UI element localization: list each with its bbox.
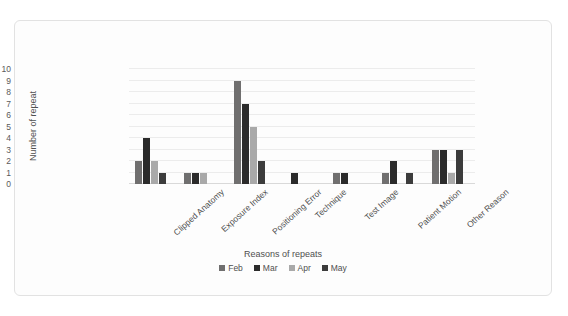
chart-figure: Number of repeat 109876543210 Clipped An… (14, 20, 552, 296)
y-axis-tick: 7 (6, 99, 11, 108)
x-axis-tick: Exposure Index (219, 187, 270, 234)
legend-item[interactable]: Feb (219, 263, 243, 273)
bar (390, 161, 397, 184)
legend-item[interactable]: May (322, 263, 347, 273)
bar (143, 138, 150, 184)
bar (184, 173, 191, 185)
bar-group (234, 69, 277, 184)
legend-label: Apr (298, 263, 311, 273)
bar-group (333, 69, 376, 184)
y-axis-tick: 9 (6, 76, 11, 85)
legend-item[interactable]: Mar (254, 263, 278, 273)
legend-label: May (331, 263, 347, 273)
y-axis-tick: 5 (6, 122, 11, 131)
bar-group (382, 69, 425, 184)
bar (200, 173, 207, 185)
y-axis-tick: 0 (6, 180, 11, 189)
y-axis-tick: 6 (6, 111, 11, 120)
x-axis-tick: Patient Motion (416, 187, 463, 231)
x-axis-tick-labels: Clipped AnatomyExposure IndexPositioning… (129, 187, 475, 257)
legend-label: Mar (263, 263, 278, 273)
bar (159, 173, 166, 185)
bar (333, 173, 340, 185)
plot-area (129, 69, 475, 184)
bar (432, 150, 439, 185)
bar (135, 161, 142, 184)
y-axis-tick: 1 (6, 168, 11, 177)
bar-group (432, 69, 475, 184)
bar (382, 173, 389, 185)
y-axis-title: Number of repeat (28, 56, 38, 196)
bar (242, 104, 249, 185)
legend-swatch-icon (289, 265, 295, 271)
bar (448, 173, 455, 185)
y-axis-tick: 4 (6, 134, 11, 143)
x-axis-tick: Test Image (363, 187, 401, 222)
bar (192, 173, 199, 185)
chart-legend: FebMarAprMay (15, 263, 551, 273)
bar-group (283, 69, 326, 184)
x-axis-title: Reasons of repeats (15, 249, 551, 259)
legend-item[interactable]: Apr (289, 263, 311, 273)
x-axis-tick: Other Reason (465, 187, 511, 230)
bar-group (184, 69, 227, 184)
bar (406, 173, 413, 185)
y-axis-tick-labels: 109876543210 (0, 69, 11, 184)
legend-swatch-icon (254, 265, 260, 271)
legend-swatch-icon (322, 265, 328, 271)
bar (341, 173, 348, 185)
bar-groups (129, 69, 475, 184)
bar (291, 173, 298, 185)
bar (440, 150, 447, 185)
bar (456, 150, 463, 185)
y-axis-tick: 3 (6, 145, 11, 154)
y-axis-tick: 2 (6, 157, 11, 166)
bar (234, 81, 241, 185)
legend-swatch-icon (219, 265, 225, 271)
y-axis-tick: 8 (6, 88, 11, 97)
legend-label: Feb (228, 263, 243, 273)
bar (250, 127, 257, 185)
bar-group (135, 69, 178, 184)
bar (258, 161, 265, 184)
y-axis-tick: 10 (2, 65, 11, 74)
x-axis-tick: Clipped Anatomy (171, 187, 225, 237)
bar (151, 161, 158, 184)
